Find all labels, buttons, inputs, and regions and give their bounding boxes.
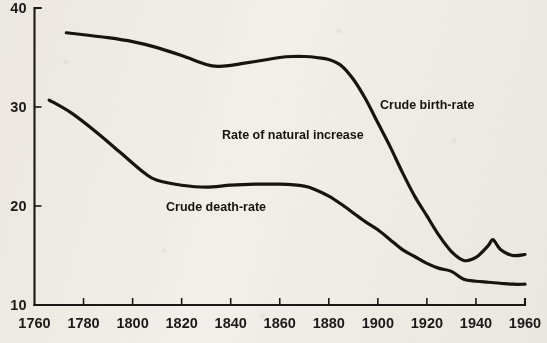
x-axis-tick-label: 1900	[362, 315, 394, 331]
y-axis-line	[35, 8, 41, 305]
annotation-crude-death-rate: Crude death-rate	[166, 200, 266, 214]
demographic-transition-line-chart: 10203040 1760178018001820184018601880190…	[0, 0, 547, 343]
x-axis-tick-labels: 1760178018001820184018601880190019201940…	[18, 315, 541, 331]
x-axis-tick-label: 1840	[215, 315, 247, 331]
series-line-crude-birth-rate	[66, 33, 525, 261]
y-axis-tick-label: 30	[10, 99, 26, 115]
x-axis-tick-label: 1780	[67, 315, 99, 331]
x-axis-tick-label: 1880	[313, 315, 345, 331]
x-axis-tick-label: 1820	[166, 315, 198, 331]
x-axis-tick-label: 1940	[460, 315, 492, 331]
y-axis-tick-labels: 10203040	[10, 0, 26, 313]
chart-series-group	[49, 33, 525, 285]
x-axis-tick-label: 1920	[411, 315, 443, 331]
y-axis-tick-label: 40	[10, 0, 26, 16]
x-axis-tick-label: 1960	[509, 315, 541, 331]
annotation-crude-birth-rate: Crude birth-rate	[380, 98, 475, 112]
y-axis-tick-label: 10	[10, 297, 26, 313]
chart-annotations: Crude birth-rateRate of natural increase…	[166, 98, 475, 214]
y-axis-tick-label: 20	[10, 198, 26, 214]
chart-axes	[35, 8, 526, 305]
annotation-rate-of-natural-increase: Rate of natural increase	[222, 128, 364, 142]
chart-figure: 10203040 1760178018001820184018601880190…	[0, 0, 547, 343]
x-axis-tick-label: 1760	[18, 315, 50, 331]
x-axis-tick-label: 1800	[116, 315, 148, 331]
x-axis-tick-label: 1860	[264, 315, 296, 331]
